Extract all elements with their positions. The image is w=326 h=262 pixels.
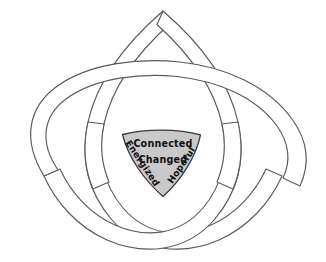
diagram-canvas: Connected Changed Energized Hopeful <box>0 0 326 262</box>
triquetra-knot-graphic: Connected Changed Energized Hopeful <box>0 0 326 262</box>
center-triangle: Connected Changed Energized Hopeful <box>123 130 201 196</box>
center-word-connected: Connected <box>133 138 192 149</box>
